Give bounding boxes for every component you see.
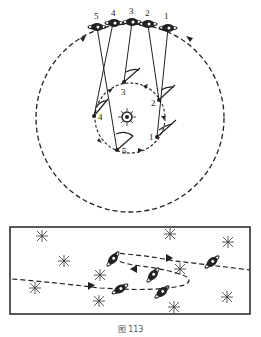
- inner-label-2: 2: [151, 98, 156, 108]
- inner-orbit: [95, 83, 165, 153]
- star-icon: [36, 230, 48, 242]
- outer-label-4: 4: [111, 8, 116, 18]
- inner-label-4: 4: [98, 112, 103, 122]
- planet-icon: [88, 23, 106, 31]
- planet-icon: [159, 24, 177, 32]
- outer-label-3: 3: [129, 6, 134, 16]
- sky-panel: [10, 227, 250, 314]
- outer-orbit: [36, 24, 224, 212]
- inner-label-3: 3: [121, 87, 126, 97]
- arrow-icon: [108, 88, 113, 93]
- star-icon: [221, 291, 233, 303]
- star-icon: [93, 295, 105, 307]
- outer-label-1: 1: [164, 11, 169, 21]
- star-icon: [168, 301, 180, 313]
- retrograde-motion-diagram: 1 2 3 4 5 1 2 3 4 5: [0, 0, 261, 337]
- sun-icon: [118, 108, 136, 126]
- star-icon: [164, 228, 176, 240]
- star-icon: [222, 236, 234, 248]
- star-icon: [58, 255, 70, 267]
- outer-label-2: 2: [145, 8, 150, 18]
- star-icon: [94, 269, 106, 281]
- star-icon: [29, 282, 41, 294]
- outer-label-5: 5: [94, 11, 99, 21]
- inner-label-1: 1: [149, 132, 154, 142]
- orbit-panel: 1 2 3 4 5 1 2 3 4 5: [36, 6, 224, 212]
- arrow-icon: [143, 84, 148, 89]
- inner-label-5: 5: [122, 146, 127, 156]
- arrow-icon: [186, 36, 193, 42]
- sight-lines: [94, 22, 168, 150]
- figure-caption: 图 113: [0, 323, 261, 334]
- planet-icon: [105, 19, 123, 27]
